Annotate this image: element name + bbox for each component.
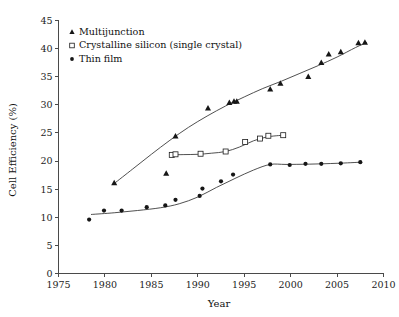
series-thin-film <box>87 160 362 222</box>
data-point <box>268 162 272 166</box>
data-point <box>355 40 361 46</box>
y-tick-label: 40 <box>40 43 52 54</box>
data-point <box>102 208 106 212</box>
x-axis-title: Year <box>207 298 231 309</box>
legend-label: Multijunction <box>79 26 145 37</box>
data-point <box>198 194 202 198</box>
y-tick-label: 35 <box>40 71 52 82</box>
data-point <box>326 51 332 57</box>
y-tick-label: 10 <box>40 212 52 223</box>
data-point <box>111 180 117 186</box>
y-tick-label: 30 <box>40 99 52 110</box>
data-point <box>198 151 203 156</box>
series-crystalline-silicon-single-crystal <box>169 133 285 158</box>
legend-marker-filled-circle-icon <box>70 57 74 61</box>
data-point <box>145 205 149 209</box>
data-point <box>243 139 248 144</box>
data-point <box>303 162 307 166</box>
y-tick-label: 25 <box>40 127 52 138</box>
data-point <box>281 133 286 138</box>
x-tick-label: 1985 <box>139 279 163 290</box>
y-tick-label: 0 <box>46 268 52 279</box>
y-tick-label: 45 <box>40 15 52 26</box>
chart-legend: MultijunctionCrystalline silicon (single… <box>69 26 242 64</box>
y-tick-label: 5 <box>46 240 52 251</box>
y-tick-label: 15 <box>40 184 52 195</box>
data-point <box>163 203 167 207</box>
data-point <box>200 187 204 191</box>
data-point <box>172 133 178 139</box>
data-point <box>219 179 223 183</box>
chart-figure: 051015202530354045 197519801985199019952… <box>0 0 399 317</box>
legend-marker-open-square-icon <box>70 43 75 48</box>
data-point <box>266 133 271 138</box>
data-point <box>305 74 311 80</box>
data-point <box>87 217 91 221</box>
data-point <box>120 208 124 212</box>
trend-line-multijunction <box>114 42 367 183</box>
data-point <box>173 198 177 202</box>
data-point <box>226 99 232 105</box>
data-point <box>288 163 292 167</box>
legend-label: Crystalline silicon (single crystal) <box>79 39 242 50</box>
series-trend-lines <box>91 42 367 214</box>
x-tick-label: 2005 <box>325 279 349 290</box>
x-tick-label: 1980 <box>93 279 117 290</box>
x-tick-label: 2010 <box>371 279 395 290</box>
data-point <box>258 136 263 141</box>
y-axis-title: Cell Efficiency (%) <box>7 103 18 197</box>
x-axis-ticks: 19751980198519901995200020052010 <box>46 274 395 290</box>
data-point <box>163 170 169 176</box>
x-tick-label: 1995 <box>232 279 256 290</box>
data-point <box>319 162 323 166</box>
data-point <box>339 161 343 165</box>
data-point <box>358 160 362 164</box>
data-point <box>205 105 211 111</box>
x-tick-label: 1975 <box>46 279 70 290</box>
data-point <box>338 49 344 55</box>
data-point <box>362 39 368 45</box>
legend-label: Thin film <box>79 53 122 64</box>
legend-marker-filled-triangle-icon <box>69 29 74 34</box>
data-point <box>223 149 228 154</box>
y-axis-ticks: 051015202530354045 <box>40 15 58 279</box>
x-tick-label: 1990 <box>186 279 210 290</box>
data-point <box>173 152 178 157</box>
x-tick-label: 2000 <box>279 279 303 290</box>
y-tick-label: 20 <box>40 155 52 166</box>
solar-cell-efficiency-chart: 051015202530354045 197519801985199019952… <box>0 0 399 317</box>
series-data-markers <box>87 39 368 221</box>
data-point <box>231 172 235 176</box>
data-point <box>318 59 324 65</box>
